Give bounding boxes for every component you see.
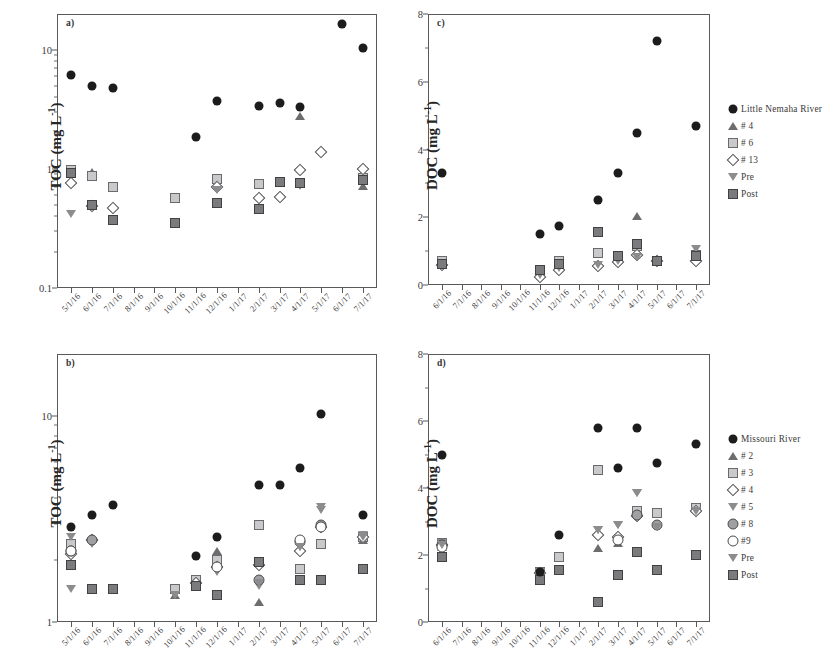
data-point	[554, 552, 564, 562]
data-point	[535, 230, 544, 239]
legend-item[interactable]: Little Nemaha River	[725, 100, 822, 117]
x-tick-label: 11/1/16	[183, 624, 208, 649]
x-tick-mark	[501, 622, 502, 627]
legend-item[interactable]: Post	[725, 566, 801, 583]
data-point	[613, 463, 622, 472]
data-point	[593, 261, 603, 269]
legend-item[interactable]: # 3	[725, 464, 801, 481]
data-point	[358, 175, 368, 185]
legend-item[interactable]: # 2	[725, 447, 801, 464]
data-point	[295, 564, 305, 574]
data-point	[613, 169, 622, 178]
x-tick-label: 4/1/17	[289, 625, 312, 648]
x-tick-mark	[462, 622, 463, 627]
x-tick-label: 10/1/16	[506, 624, 532, 650]
data-point	[632, 239, 642, 249]
diamond-icon	[727, 153, 740, 166]
data-point	[535, 265, 545, 275]
x-tick-mark	[280, 622, 281, 627]
data-point	[316, 575, 326, 585]
data-point	[254, 204, 264, 214]
legend-item[interactable]: Pre	[725, 168, 822, 185]
legend-label: Post	[741, 189, 758, 199]
data-point	[652, 523, 662, 531]
x-tick-label: 1/1/17	[567, 625, 590, 648]
legend-item[interactable]: # 6	[725, 134, 822, 151]
data-point	[652, 458, 661, 467]
x-tick-label: 3/1/17	[606, 625, 629, 648]
data-point	[296, 463, 305, 472]
x-tick-mark	[113, 288, 114, 293]
filled-square-icon	[728, 189, 738, 199]
data-point	[554, 259, 564, 269]
data-point	[359, 43, 368, 52]
data-point	[213, 532, 222, 541]
legend-label: # 4	[741, 485, 753, 495]
data-point	[438, 450, 447, 459]
y-axis-title-exponent: -1	[46, 107, 57, 115]
data-point	[317, 410, 326, 419]
data-point	[633, 128, 642, 137]
data-point	[108, 215, 118, 225]
legend-item[interactable]: Post	[725, 185, 822, 202]
data-point	[633, 423, 642, 432]
x-tick-mark	[92, 622, 93, 627]
y-axis-title-text: DOC (mg L	[424, 114, 440, 190]
data-point	[66, 546, 77, 557]
legend-marker	[725, 466, 741, 480]
legend-item[interactable]: # 4	[725, 117, 822, 134]
filled-square-icon	[728, 570, 738, 580]
legend-item[interactable]: Missouri River	[725, 430, 801, 447]
data-point	[316, 539, 326, 549]
up-triangle-icon	[728, 452, 738, 460]
data-point	[108, 584, 118, 594]
x-tick-label: 6/1/16	[80, 625, 103, 648]
data-point	[613, 251, 623, 261]
data-point	[192, 551, 201, 560]
data-point	[612, 534, 623, 545]
legend-item[interactable]: #9	[725, 532, 801, 549]
down-triangle-icon	[728, 173, 738, 181]
data-point	[555, 221, 564, 230]
x-tick-label: 7/1/17	[685, 288, 708, 311]
y-tick-mark	[423, 14, 428, 15]
data-point	[254, 481, 263, 490]
x-tick-label: 3/1/17	[268, 625, 291, 648]
x-tick-label: 3/1/17	[606, 288, 629, 311]
legend-item[interactable]: # 4	[725, 481, 801, 498]
legend-item[interactable]: # 8	[725, 515, 801, 532]
legend-item[interactable]: # 5	[725, 498, 801, 515]
legend-top: Little Nemaha River# 4# 6# 13PrePost	[725, 100, 822, 202]
data-point	[170, 193, 180, 203]
data-point	[87, 584, 97, 594]
y-tick-mark	[52, 288, 57, 289]
data-point	[66, 533, 76, 541]
data-point	[593, 544, 603, 552]
data-point	[613, 570, 623, 580]
down-triangle-icon	[728, 554, 738, 562]
data-point	[359, 511, 368, 520]
x-tick-label: 12/1/16	[203, 624, 229, 650]
x-tick-label: 5/1/16	[60, 291, 83, 314]
data-point	[632, 547, 642, 557]
x-tick-label: 7/1/16	[450, 288, 473, 311]
legend-label: Pre	[741, 172, 754, 182]
data-point	[632, 253, 642, 261]
data-point	[438, 169, 447, 178]
y-minor-tick	[425, 588, 428, 589]
legend-item[interactable]: # 13	[725, 151, 822, 168]
data-point	[316, 521, 327, 532]
x-tick-label: 11/1/16	[183, 290, 208, 315]
y-axis-title-text: DOC (mg L	[424, 452, 440, 528]
x-tick-mark	[540, 285, 541, 290]
legend-label: # 3	[741, 468, 753, 478]
legend-item[interactable]: Pre	[725, 549, 801, 566]
x-tick-mark	[280, 288, 281, 293]
data-point	[316, 506, 326, 514]
y-minor-tick	[425, 47, 428, 48]
data-point	[295, 112, 305, 120]
y-minor-tick	[54, 252, 57, 253]
x-tick-mark	[134, 622, 135, 627]
data-point	[593, 248, 603, 258]
data-point	[87, 171, 97, 181]
